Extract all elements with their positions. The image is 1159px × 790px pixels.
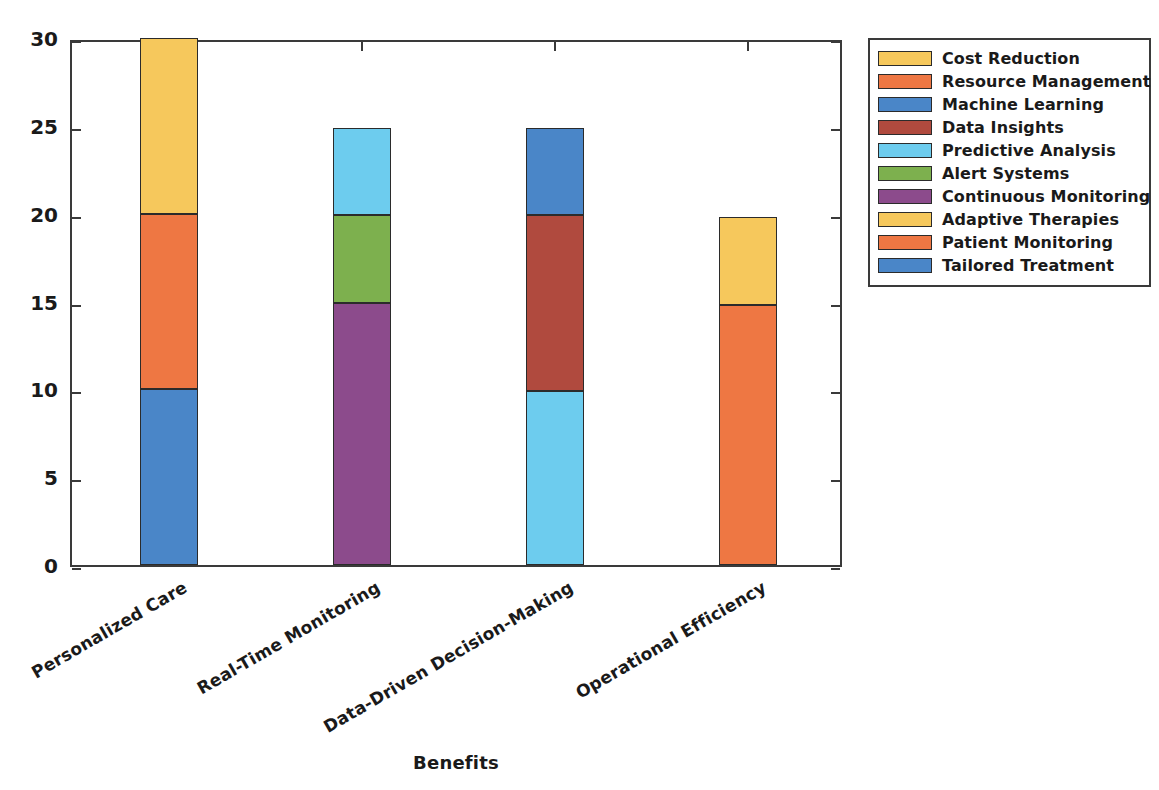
plot-inner (72, 42, 840, 565)
legend-item[interactable]: Tailored Treatment (878, 254, 1143, 277)
y-tick-label: 20 (10, 205, 58, 225)
y-tick-mark (72, 217, 81, 219)
x-tick-label: Real-Time Monitoring (193, 577, 383, 698)
legend-label: Patient Monitoring (942, 233, 1113, 252)
chart-legend: Cost ReductionResource ManagementMachine… (868, 38, 1151, 287)
y-tick-mark-right (831, 305, 840, 307)
y-tick-mark (72, 568, 81, 570)
legend-swatch-icon (878, 212, 932, 227)
bar-segment[interactable] (526, 215, 584, 391)
y-tick-mark-right (831, 217, 840, 219)
bar-segment[interactable] (526, 391, 584, 565)
bar-segment[interactable] (719, 217, 777, 305)
bar-segment[interactable] (140, 38, 198, 214)
bar-segment[interactable] (140, 214, 198, 390)
legend-label: Resource Management (942, 72, 1151, 91)
legend-item[interactable]: Alert Systems (878, 162, 1143, 185)
y-tick-mark (72, 129, 81, 131)
bar-stack[interactable] (526, 128, 584, 565)
legend-label: Adaptive Therapies (942, 210, 1119, 229)
legend-label: Predictive Analysis (942, 141, 1116, 160)
bar-segment[interactable] (333, 215, 391, 303)
y-tick-label: 10 (10, 380, 58, 400)
x-tick-mark-top (554, 42, 556, 51)
legend-label: Cost Reduction (942, 49, 1080, 68)
legend-item[interactable]: Adaptive Therapies (878, 208, 1143, 231)
y-tick-mark-right (831, 568, 840, 570)
y-tick-mark-right (831, 129, 840, 131)
x-tick-label: Personalized Care (28, 577, 191, 682)
bar-stack[interactable] (333, 128, 391, 565)
legend-item[interactable]: Machine Learning (878, 93, 1143, 116)
legend-swatch-icon (878, 120, 932, 135)
y-tick-mark-right (831, 392, 840, 394)
legend-item[interactable]: Resource Management (878, 70, 1143, 93)
legend-swatch-icon (878, 258, 932, 273)
y-tick-mark-right (831, 480, 840, 482)
y-tick-mark-right (831, 41, 840, 43)
plot-area (70, 40, 842, 567)
x-axis-title: Benefits (70, 752, 842, 773)
y-tick-mark (72, 480, 81, 482)
x-tick-mark-top (361, 42, 363, 51)
y-tick-label: 0 (10, 556, 58, 576)
legend-swatch-icon (878, 51, 932, 66)
legend-swatch-icon (878, 166, 932, 181)
y-tick-label: 15 (10, 293, 58, 313)
chart-figure: Contribution Level (%) 051015202530 Pers… (0, 0, 1159, 790)
y-tick-label: 5 (10, 468, 58, 488)
bar-segment[interactable] (333, 128, 391, 216)
legend-label: Continuous Monitoring (942, 187, 1150, 206)
legend-item[interactable]: Cost Reduction (878, 47, 1143, 70)
x-tick-label: Operational Efficiency (572, 577, 769, 702)
legend-swatch-icon (878, 189, 932, 204)
legend-item[interactable]: Predictive Analysis (878, 139, 1143, 162)
y-tick-mark (72, 305, 81, 307)
bar-segment[interactable] (526, 128, 584, 216)
bar-stack[interactable] (719, 217, 777, 565)
legend-item[interactable]: Patient Monitoring (878, 231, 1143, 254)
legend-label: Data Insights (942, 118, 1064, 137)
legend-label: Tailored Treatment (942, 256, 1114, 275)
legend-swatch-icon (878, 74, 932, 89)
bar-segment[interactable] (140, 389, 198, 565)
legend-label: Alert Systems (942, 164, 1069, 183)
bar-stack[interactable] (140, 38, 198, 565)
y-tick-label: 25 (10, 117, 58, 137)
bar-segment[interactable] (333, 303, 391, 565)
legend-item[interactable]: Data Insights (878, 116, 1143, 139)
x-tick-mark-top (747, 42, 749, 51)
legend-item[interactable]: Continuous Monitoring (878, 185, 1143, 208)
legend-label: Machine Learning (942, 95, 1104, 114)
y-tick-mark (72, 392, 81, 394)
legend-swatch-icon (878, 97, 932, 112)
y-tick-mark (72, 41, 81, 43)
legend-swatch-icon (878, 143, 932, 158)
bar-segment[interactable] (719, 305, 777, 565)
y-tick-label: 30 (10, 29, 58, 49)
legend-swatch-icon (878, 235, 932, 250)
